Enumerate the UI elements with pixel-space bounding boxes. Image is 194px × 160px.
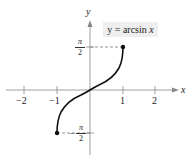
y-tick-label-neg-pi-over-2: π 2 — [76, 124, 86, 143]
arcsin-plot — [0, 0, 194, 160]
y-tick-label-pi-over-2: π 2 — [75, 38, 85, 57]
neg-sign: − — [69, 129, 74, 138]
denominator: 2 — [76, 134, 86, 143]
x-axis-label: x — [181, 85, 185, 95]
x-tick-label-neg1: −1 — [49, 96, 60, 106]
x-tick-label-2: 2 — [152, 96, 157, 106]
pi-symbol: π — [76, 124, 86, 134]
x-tick-label-1: 1 — [120, 96, 125, 106]
denominator: 2 — [75, 48, 85, 57]
equation-prefix: y = arcsin — [107, 24, 149, 35]
function-label: y = arcsin x — [103, 22, 158, 37]
x-axis-arrow-icon — [172, 88, 179, 93]
y-axis-label: y — [86, 7, 90, 17]
x-tick-label-neg2: −2 — [16, 96, 27, 106]
y-axis-arrow-icon — [88, 20, 93, 27]
endpoint-bottom — [55, 131, 59, 135]
endpoint-top — [121, 45, 125, 49]
pi-symbol: π — [75, 38, 85, 48]
equation-variable: x — [149, 24, 153, 35]
